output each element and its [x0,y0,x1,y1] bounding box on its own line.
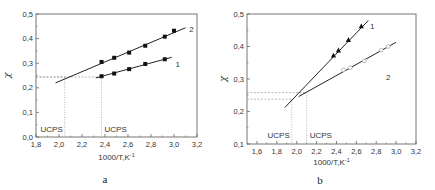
series-label-2: 2 [386,73,391,82]
y-tick-label: 0,3 [23,59,33,68]
data-point-square [100,74,104,78]
chart-b: 1,61,82,02,22,42,62,83,03,20,10,20,30,40… [217,10,421,187]
y-axis-title: χ [1,72,12,80]
data-point-circle [348,66,352,70]
x-tick-label: 3,0 [169,140,179,149]
x-tick-label: 2,0 [291,147,301,156]
data-point-circle [386,45,390,49]
data-point-square [163,57,167,61]
x-tick-label: 2,6 [123,140,133,149]
y-axis-title: χ [217,75,228,83]
data-point-square [112,56,116,60]
x-tick-label: 3,2 [192,140,202,149]
ucps-label: UCPS [268,131,290,140]
y-tick-label: 0,3 [234,75,244,84]
data-point-circle [342,68,346,72]
x-tick-label: 1,8 [272,147,282,156]
x-axis-title: 1000/T,K-1 [98,152,134,162]
data-point-square [127,51,131,55]
y-tick-label: 0,2 [234,107,244,116]
ucps-label: UCPS [310,131,332,140]
x-tick-label: 2,2 [77,140,87,149]
x-tick-label: 2,8 [146,140,156,149]
data-point-square [163,35,167,39]
x-tick-label: 3,2 [411,147,421,156]
y-tick-label: 0,5 [234,10,244,19]
data-point-square [112,72,116,76]
data-point-circle [362,59,366,63]
x-axis-title-sup: -1 [130,152,135,158]
y-tick-label: 0,4 [234,42,244,51]
x-tick-label: 2,6 [351,147,361,156]
chart-a: 1,82,02,22,42,62,83,03,20,00,10,20,30,40… [1,10,202,186]
x-tick-label: 3,0 [391,147,401,156]
data-point-square [172,29,176,33]
series-label-1: 1 [175,60,180,69]
ucps-label: UCPS [41,125,63,134]
figure: 1,82,02,22,42,62,83,03,20,00,10,20,30,40… [0,0,435,190]
x-tick-label: 2,2 [311,147,321,156]
series-label-1: 1 [370,22,375,31]
y-tick-label: 0,1 [234,140,244,149]
data-point-square [143,44,147,48]
chart-caption: b [317,174,323,186]
x-tick-label: 2,4 [100,140,110,149]
fit-line-1 [285,21,369,108]
x-tick-label: 2,8 [371,147,381,156]
x-tick-label: 1,6 [252,147,262,156]
y-tick-label: 0,5 [23,10,33,19]
fit-line-1 [96,57,172,78]
y-tick-label: 0,0 [23,133,33,142]
plot-frame [247,14,416,144]
chart-caption: a [103,173,108,185]
y-tick-label: 0,4 [23,34,33,43]
data-point-square [143,62,147,66]
x-axis-title-text: 1000/T,K [313,158,345,167]
data-point-square [100,60,104,64]
x-tick-label: 2,0 [54,140,64,149]
data-point-square [127,67,131,71]
x-axis-title-sup: -1 [345,157,350,163]
ucps-label: UCPS [105,125,127,134]
x-axis-title-text: 1000/T,K [98,153,130,162]
data-point-circle [379,48,383,52]
series-label-2: 2 [189,25,194,34]
x-tick-label: 2,4 [331,147,341,156]
y-tick-label: 0,1 [23,108,33,117]
x-axis-title: 1000/T,K-1 [313,157,349,167]
y-tick-label: 0,2 [23,83,33,92]
